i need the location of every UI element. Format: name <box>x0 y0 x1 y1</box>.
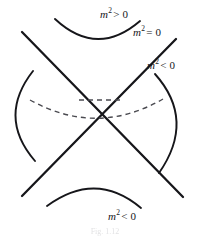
label-symbol-m: m <box>133 26 141 38</box>
label-m2-greater-zero: m2> 0 <box>100 9 128 20</box>
branch-bottom-curve <box>47 188 141 208</box>
label-m2-equals-zero: m2= 0 <box>133 27 161 38</box>
label-relation: > 0 <box>113 8 128 20</box>
label-symbol-m: m <box>108 210 116 222</box>
caption-fragment: Fig. 1.12 <box>70 227 140 236</box>
label-exponent: 2 <box>141 24 145 33</box>
label-symbol-m: m <box>100 8 108 20</box>
label-exponent: 2 <box>108 6 112 15</box>
hyperbola-diagram <box>0 0 210 236</box>
figure-container: m2> 0 m2= 0 m2< 0 m2< 0 Fig. 1.12 <box>0 0 210 236</box>
label-m2-less-zero-bottom: m2< 0 <box>108 211 136 222</box>
label-relation: < 0 <box>160 59 175 71</box>
label-exponent: 2 <box>116 208 120 217</box>
branch-top-curve <box>55 19 140 39</box>
label-m2-less-zero-right: m2< 0 <box>147 60 175 71</box>
label-relation: < 0 <box>121 210 136 222</box>
label-relation: = 0 <box>146 26 161 38</box>
label-symbol-m: m <box>147 59 155 71</box>
label-exponent: 2 <box>155 57 159 66</box>
branch-right-curve <box>155 74 177 173</box>
branch-left-curve <box>15 71 35 161</box>
